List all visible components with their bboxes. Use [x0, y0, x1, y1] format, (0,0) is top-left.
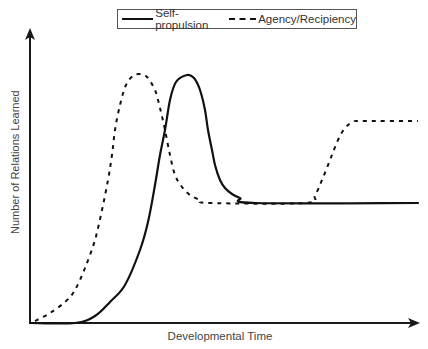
series-agency-recipiency — [35, 74, 418, 321]
legend-label-self-propulsion: Self-propulsion — [155, 7, 225, 31]
axes — [25, 28, 420, 328]
dashed-line-swatch-icon — [229, 18, 257, 20]
legend-label-agency-recipiency: Agency/Recipiency — [258, 13, 356, 25]
solid-line-swatch-icon — [122, 18, 153, 20]
series-self-propulsion — [30, 75, 418, 324]
x-axis-label: Developmental Time — [150, 330, 290, 342]
line-chart — [0, 0, 428, 349]
chart-legend: Self-propulsion Agency/Recipiency — [117, 9, 357, 29]
y-axis-label: Number of Relations Learned — [9, 104, 21, 234]
